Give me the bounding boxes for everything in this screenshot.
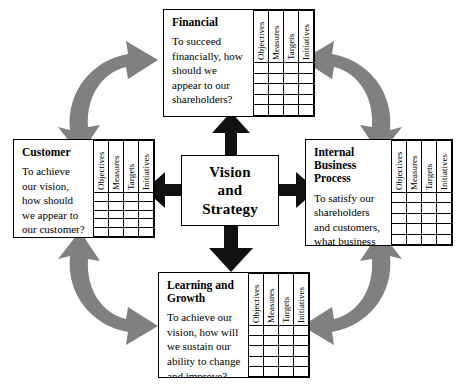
- grid-cell[interactable]: [392, 203, 406, 213]
- grid-cell[interactable]: [422, 214, 436, 224]
- grid-cell[interactable]: [269, 84, 283, 95]
- grid-cell[interactable]: [279, 336, 293, 346]
- grid-cell[interactable]: [284, 74, 298, 85]
- grid-cell[interactable]: [294, 357, 308, 367]
- grid-cell[interactable]: [437, 203, 451, 213]
- grid-cell[interactable]: [422, 235, 436, 245]
- grid-cell[interactable]: [124, 202, 138, 211]
- grid-cell[interactable]: [392, 193, 406, 203]
- grid-column-targets[interactable]: Targets: [422, 141, 437, 245]
- grid-cell[interactable]: [294, 346, 308, 356]
- grid-cell[interactable]: [249, 326, 263, 336]
- grid-cell[interactable]: [94, 193, 108, 202]
- grid-cell[interactable]: [94, 202, 108, 211]
- grid-column-objectives[interactable]: Objectives: [94, 141, 109, 237]
- grid-column-measures[interactable]: Measures: [407, 141, 422, 245]
- grid-cell[interactable]: [407, 214, 421, 224]
- grid-cell[interactable]: [437, 214, 451, 224]
- grid-cell[interactable]: [279, 326, 293, 336]
- grid-cell[interactable]: [249, 367, 263, 377]
- grid-cell[interactable]: [139, 228, 153, 237]
- perspective-box-internal-business-process[interactable]: Internal Business Process To satisfy our…: [305, 139, 453, 246]
- grid-cell[interactable]: [294, 367, 308, 377]
- grid-cell[interactable]: [392, 224, 406, 234]
- perspective-box-financial[interactable]: Financial To succeed financially, how sh…: [163, 9, 315, 117]
- grid-cell[interactable]: [254, 84, 268, 95]
- grid-cell[interactable]: [299, 84, 313, 95]
- grid-column-initiatives[interactable]: Initiatives: [294, 274, 309, 377]
- grid-cell[interactable]: [422, 193, 436, 203]
- grid-cell[interactable]: [407, 203, 421, 213]
- grid-cell[interactable]: [269, 74, 283, 85]
- grid-cell[interactable]: [422, 203, 436, 213]
- grid-cell[interactable]: [437, 235, 451, 245]
- grid-cell[interactable]: [109, 228, 123, 237]
- grid-cell[interactable]: [264, 357, 278, 367]
- grid-cell[interactable]: [294, 326, 308, 336]
- grid-cell[interactable]: [109, 202, 123, 211]
- grid-cell[interactable]: [437, 193, 451, 203]
- grid-cell[interactable]: [139, 219, 153, 228]
- grid-cell[interactable]: [124, 219, 138, 228]
- grid-column-measures[interactable]: Measures: [269, 11, 284, 116]
- grid-column-initiatives[interactable]: Initiatives: [299, 11, 314, 116]
- grid-cell[interactable]: [139, 193, 153, 202]
- perspective-box-learning-and-growth[interactable]: Learning and Growth To achieve our visio…: [158, 272, 310, 378]
- grid-cell[interactable]: [294, 336, 308, 346]
- vision-and-strategy-box[interactable]: Vision and Strategy: [181, 155, 279, 226]
- grid-cell[interactable]: [254, 63, 268, 74]
- grid-cell[interactable]: [249, 346, 263, 356]
- grid-cell[interactable]: [279, 346, 293, 356]
- grid-column-targets[interactable]: Targets: [124, 141, 139, 237]
- grid-column-targets[interactable]: Targets: [284, 11, 299, 116]
- learning-and-growth-scorecard-grid[interactable]: Objectives Measures Target: [248, 273, 309, 377]
- grid-cell[interactable]: [269, 63, 283, 74]
- grid-cell[interactable]: [284, 84, 298, 95]
- grid-cell[interactable]: [249, 357, 263, 367]
- grid-cell[interactable]: [392, 214, 406, 224]
- grid-column-objectives[interactable]: Objectives: [254, 11, 269, 116]
- grid-cell[interactable]: [422, 224, 436, 234]
- grid-cell[interactable]: [299, 95, 313, 106]
- grid-column-objectives[interactable]: Objectives: [249, 274, 264, 377]
- grid-cell[interactable]: [269, 105, 283, 116]
- grid-cell[interactable]: [254, 74, 268, 85]
- grid-cell[interactable]: [94, 219, 108, 228]
- financial-scorecard-grid[interactable]: Objectives Measures Target: [253, 10, 314, 116]
- perspective-box-customer[interactable]: Customer To achieve our vision, how shou…: [13, 139, 155, 238]
- grid-column-objectives[interactable]: Objectives: [392, 141, 407, 245]
- grid-cell[interactable]: [284, 95, 298, 106]
- grid-cell[interactable]: [284, 105, 298, 116]
- grid-cell[interactable]: [94, 211, 108, 220]
- grid-column-initiatives[interactable]: Initiatives: [139, 141, 154, 237]
- grid-cell[interactable]: [109, 211, 123, 220]
- grid-cell[interactable]: [109, 219, 123, 228]
- grid-cell[interactable]: [299, 63, 313, 74]
- grid-cell[interactable]: [264, 367, 278, 377]
- grid-cell[interactable]: [299, 74, 313, 85]
- grid-cell[interactable]: [109, 193, 123, 202]
- grid-cell[interactable]: [139, 211, 153, 220]
- grid-cell[interactable]: [407, 193, 421, 203]
- grid-cell[interactable]: [94, 228, 108, 237]
- grid-cell[interactable]: [437, 224, 451, 234]
- grid-column-measures[interactable]: Measures: [264, 274, 279, 377]
- grid-cell[interactable]: [254, 105, 268, 116]
- grid-column-targets[interactable]: Targets: [279, 274, 294, 377]
- grid-cell[interactable]: [299, 105, 313, 116]
- grid-cell[interactable]: [279, 367, 293, 377]
- grid-cell[interactable]: [284, 63, 298, 74]
- grid-cell[interactable]: [269, 95, 283, 106]
- internal-business-process-scorecard-grid[interactable]: Objectives Measures Target: [391, 140, 452, 245]
- customer-scorecard-grid[interactable]: Objectives Measures Target: [93, 140, 154, 237]
- grid-cell[interactable]: [264, 326, 278, 336]
- grid-cell[interactable]: [124, 193, 138, 202]
- grid-cell[interactable]: [264, 346, 278, 356]
- grid-column-measures[interactable]: Measures: [109, 141, 124, 237]
- grid-cell[interactable]: [254, 95, 268, 106]
- grid-cell[interactable]: [249, 336, 263, 346]
- grid-cell[interactable]: [124, 211, 138, 220]
- grid-column-initiatives[interactable]: Initiatives: [437, 141, 452, 245]
- grid-cell[interactable]: [392, 235, 406, 245]
- grid-cell[interactable]: [407, 224, 421, 234]
